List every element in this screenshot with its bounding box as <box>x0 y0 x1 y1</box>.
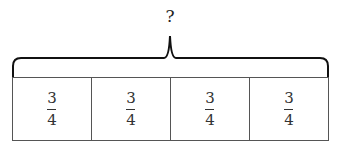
fraction: 3 4 <box>205 90 215 129</box>
curly-brace-icon <box>0 0 342 80</box>
fraction-bar <box>47 109 56 110</box>
fraction: 3 4 <box>126 90 136 129</box>
fraction-bar <box>205 109 214 110</box>
tape-part: 3 4 <box>171 78 250 140</box>
denominator: 4 <box>47 112 57 129</box>
fraction-bar <box>284 109 293 110</box>
tape-bar: 3 4 3 4 3 4 3 4 <box>12 77 329 141</box>
tape-part: 3 4 <box>250 78 328 140</box>
tape-diagram: ? 3 4 3 4 3 4 3 <box>0 0 342 154</box>
denominator: 4 <box>126 112 136 129</box>
fraction-bar <box>126 109 135 110</box>
denominator: 4 <box>205 112 215 129</box>
fraction: 3 4 <box>284 90 294 129</box>
numerator: 3 <box>284 90 294 107</box>
numerator: 3 <box>126 90 136 107</box>
fraction: 3 4 <box>47 90 57 129</box>
numerator: 3 <box>47 90 57 107</box>
denominator: 4 <box>284 112 294 129</box>
tape-part: 3 4 <box>92 78 171 140</box>
numerator: 3 <box>205 90 215 107</box>
tape-part: 3 4 <box>13 78 92 140</box>
